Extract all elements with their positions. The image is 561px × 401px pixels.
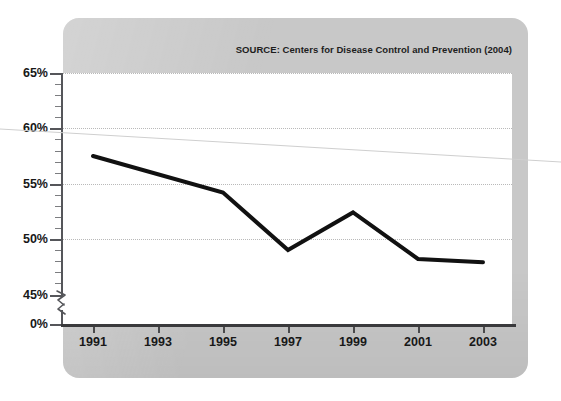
data-series-line (93, 156, 483, 262)
data-series-layer (0, 0, 561, 401)
